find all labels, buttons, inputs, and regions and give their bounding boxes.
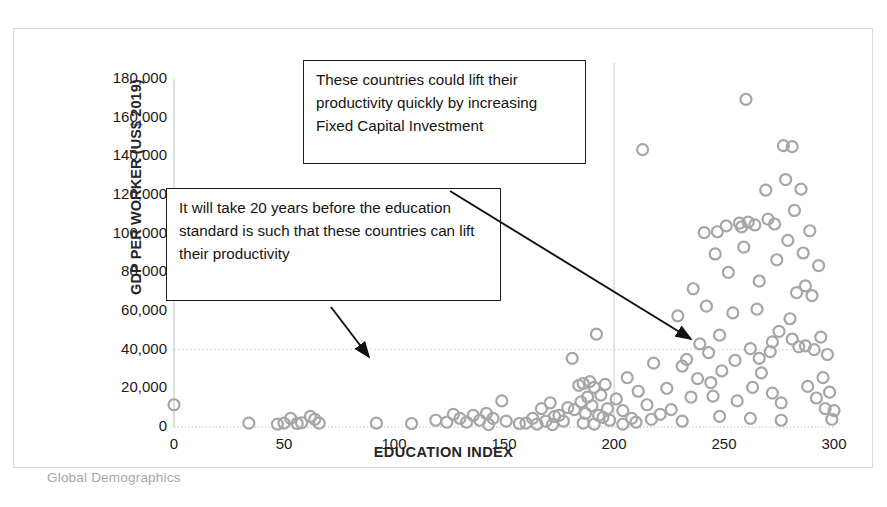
scatter-point xyxy=(703,347,714,358)
scatter-point xyxy=(611,393,622,404)
scatter-point xyxy=(732,395,743,406)
scatter-point xyxy=(514,418,525,429)
y-tick-label: 0 xyxy=(73,417,167,434)
y-tick-label: 180,000 xyxy=(73,69,167,86)
callout-education-standard: It will take 20 years before the educati… xyxy=(166,188,501,301)
scatter-point xyxy=(804,225,815,236)
scatter-point xyxy=(701,301,712,312)
y-axis-title: GDP PER WORKER (US$ 2019) xyxy=(128,57,144,317)
scatter-point xyxy=(622,372,633,383)
scatter-point xyxy=(796,184,807,195)
scatter-point xyxy=(496,395,507,406)
scatter-point xyxy=(666,404,677,415)
scatter-point xyxy=(811,393,822,404)
scatter-point xyxy=(710,248,721,259)
scatter-point xyxy=(822,349,833,360)
scatter-point xyxy=(785,313,796,324)
scatter-point xyxy=(730,355,741,366)
y-tick-label: 120,000 xyxy=(73,185,167,202)
scatter-point xyxy=(595,390,606,401)
scatter-point xyxy=(738,242,749,253)
scatter-point xyxy=(591,329,602,340)
y-tick-label: 20,000 xyxy=(73,378,167,395)
scatter-point xyxy=(745,343,756,354)
scatter-point xyxy=(637,144,648,155)
scatter-point xyxy=(406,418,417,429)
scatter-point xyxy=(800,280,811,291)
scatter-point xyxy=(694,338,705,349)
scatter-point xyxy=(646,414,657,425)
scatter-point xyxy=(633,386,644,397)
scatter-point xyxy=(782,235,793,246)
x-axis-title: EDUCATION INDEX xyxy=(0,444,887,460)
scatter-point xyxy=(430,415,441,426)
scatter-point xyxy=(648,358,659,369)
scatter-point xyxy=(661,383,672,394)
scatter-point xyxy=(771,254,782,265)
scatter-point xyxy=(708,391,719,402)
scatter-point xyxy=(727,307,738,318)
scatter-point xyxy=(714,411,725,422)
scatter-point xyxy=(705,377,716,388)
scatter-point xyxy=(754,353,765,364)
scatter-point xyxy=(818,372,829,383)
scatter-point xyxy=(721,220,732,231)
scatter-point xyxy=(714,330,725,341)
callout-fixed-capital-investment: These countries could lift their product… xyxy=(303,60,586,164)
scatter-point xyxy=(604,415,615,426)
scatter-point xyxy=(567,353,578,364)
scatter-point xyxy=(789,205,800,216)
scatter-point xyxy=(747,382,758,393)
scatter-point xyxy=(780,174,791,185)
scatter-point xyxy=(723,267,734,278)
scatter-point xyxy=(688,283,699,294)
scatter-point xyxy=(767,388,778,399)
scatter-point xyxy=(749,219,760,230)
scatter-point xyxy=(760,185,771,196)
scatter-point xyxy=(752,304,763,315)
scatter-point xyxy=(545,397,556,408)
scatter-point xyxy=(802,381,813,392)
scatter-point xyxy=(741,94,752,105)
scatter-point xyxy=(617,419,628,430)
scatter-point xyxy=(745,413,756,424)
y-tick-label: 40,000 xyxy=(73,340,167,357)
scatter-point xyxy=(813,260,824,271)
y-tick-label: 160,000 xyxy=(73,108,167,125)
y-tick-label: 140,000 xyxy=(73,146,167,163)
scatter-point xyxy=(776,397,787,408)
scatter-point xyxy=(774,326,785,337)
y-axis-tick-labels: 020,00040,00060,00080,000100,000120,0001… xyxy=(69,29,167,469)
scatter-point xyxy=(600,379,611,390)
scatter-point xyxy=(787,334,798,345)
scatter-point xyxy=(642,399,653,410)
scatter-point xyxy=(371,418,382,429)
scatter-point xyxy=(776,415,787,426)
scatter-point xyxy=(686,392,697,403)
scatter-point xyxy=(692,373,703,384)
source-attribution: Global Demographics xyxy=(47,470,181,485)
scatter-point xyxy=(798,248,809,259)
scatter-point xyxy=(824,387,835,398)
y-tick-label: 80,000 xyxy=(73,262,167,279)
scatter-point xyxy=(501,416,512,427)
scatter-point xyxy=(815,332,826,343)
scatter-point xyxy=(716,365,727,376)
scatter-point xyxy=(672,310,683,321)
scatter-point xyxy=(754,276,765,287)
y-tick-label: 60,000 xyxy=(73,301,167,318)
scatter-point xyxy=(699,227,710,238)
scatter-point xyxy=(677,416,688,427)
scatter-point xyxy=(756,367,767,378)
y-tick-label: 100,000 xyxy=(73,224,167,241)
